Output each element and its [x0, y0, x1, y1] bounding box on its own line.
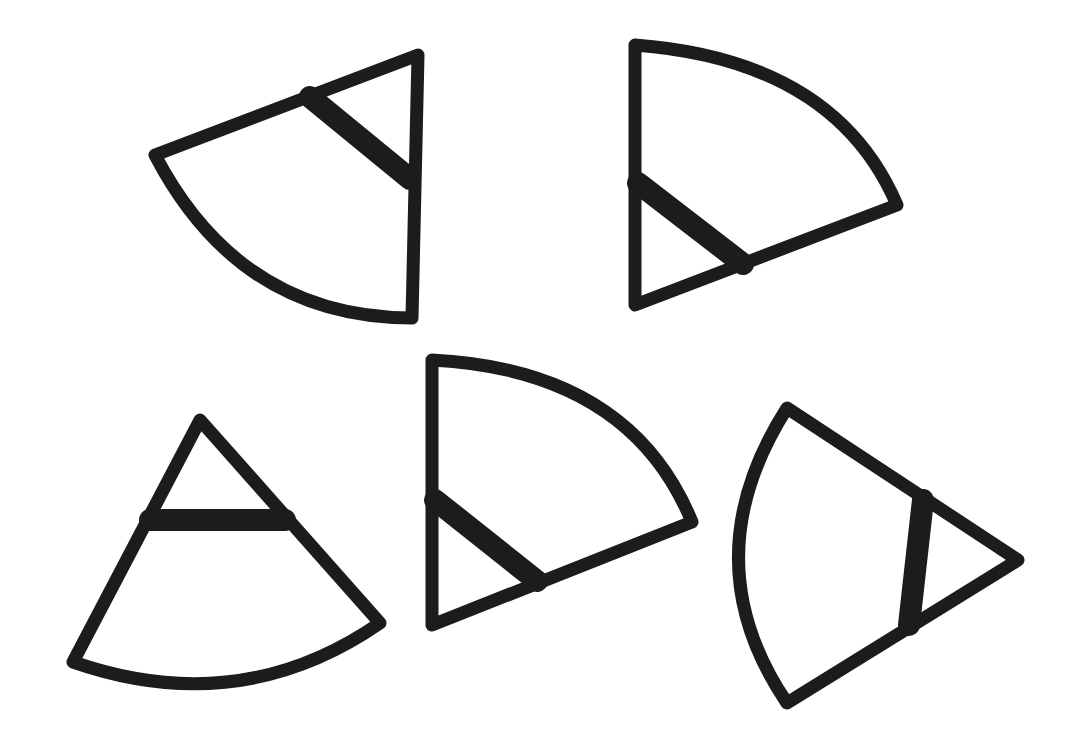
- sector-shape-4: [432, 360, 692, 625]
- sector-shape-1: [155, 55, 418, 318]
- sector-shape-2: [635, 45, 897, 305]
- sector-shape-3: [73, 420, 380, 684]
- sector-shapes-figure: [0, 0, 1080, 745]
- sector-shape-5: [739, 408, 1019, 703]
